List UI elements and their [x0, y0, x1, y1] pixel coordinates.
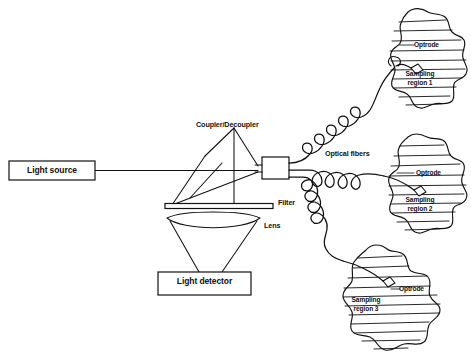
optical-fibers-label: Optical fibers [325, 150, 370, 158]
sampling-region-2-blob [384, 134, 467, 233]
sampling-region-1-label-line1: Sampling [398, 70, 442, 77]
optrode-2-label: Optrode [416, 169, 441, 176]
sampling-region-1-label-line2: region 1 [398, 79, 442, 86]
coupler-body-box [255, 157, 289, 179]
lens-shape [167, 212, 260, 272]
filter-shape [165, 204, 273, 209]
sampling-region-1-blob [389, 9, 468, 108]
lens-label: Lens [264, 222, 280, 230]
filter-label: Filter [278, 199, 295, 207]
sampling-region-3-label-line2: region 3 [344, 305, 388, 312]
schematic-drawing [0, 0, 471, 362]
figure-canvas: Light source Light detector Coupler/Deco… [0, 0, 471, 362]
optrode-1-label: Optrode [414, 41, 439, 48]
sampling-region-2-label-line1: Sampling [398, 196, 442, 203]
light-detector-label: Light detector [158, 277, 251, 287]
sampling-region-3-label-line1: Sampling [344, 296, 388, 303]
coupler-decoupler-shape [172, 128, 258, 205]
optical-fiber-path-3 [289, 177, 343, 261]
sampling-region-2-label-line2: region 2 [398, 205, 442, 212]
light-source-label: Light source [9, 166, 95, 176]
optrode-3-label: Optrode [399, 285, 424, 292]
coupler-decoupler-label: Coupler/Decoupler [196, 121, 259, 129]
optical-fiber-path-2 [289, 170, 384, 189]
